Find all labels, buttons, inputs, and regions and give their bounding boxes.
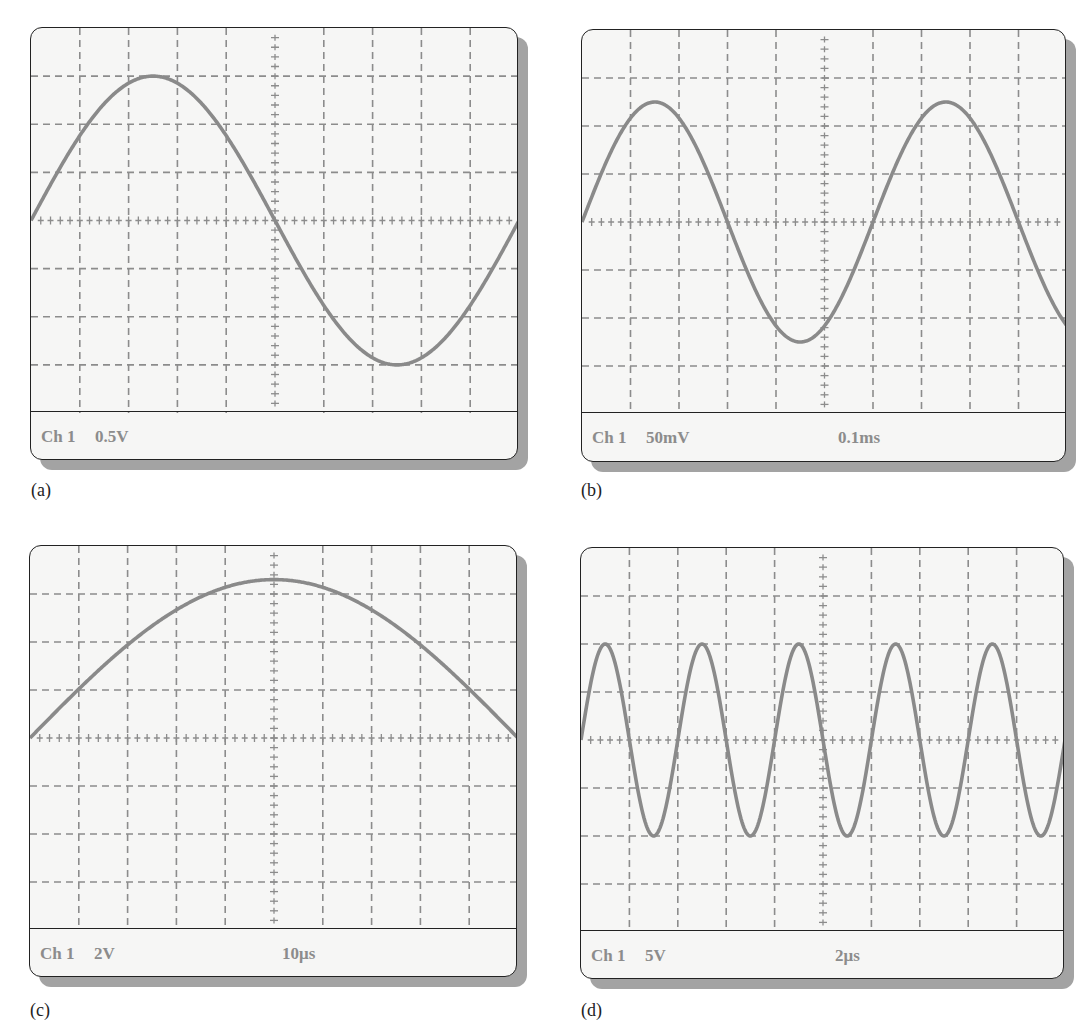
scope-panel-a: Ch 1 0.5V [30,27,518,460]
scope-screen-frame: Ch 1 0.5V [30,27,518,460]
scope-panel-d: Ch 1 5V 2μs [580,547,1064,979]
scope-graticule-b [582,30,1066,414]
scope-screen-frame: Ch 1 2V 10μs [29,545,517,977]
channel-label: Ch 1 [591,946,625,966]
panel-caption-a: (a) [31,480,51,501]
readout-bar: Ch 1 2V 10μs [30,928,516,976]
time-per-div: 10μs [282,944,315,964]
panel-caption-b: (b) [581,480,602,501]
channel-label: Ch 1 [41,427,75,447]
readout-bar: Ch 1 0.5V [31,411,517,459]
scope-screen-frame: Ch 1 5V 2μs [580,547,1064,979]
channel-label: Ch 1 [592,428,626,448]
scope-graticule-a [31,28,518,413]
scope-panel-b: Ch 1 50mV 0.1ms [581,29,1066,462]
scope-graticule-d [581,548,1064,932]
waveform-trace [31,76,518,365]
volts-per-div: 50mV [646,428,689,448]
scope-graticule-c [30,546,517,930]
volts-per-div: 5V [645,946,666,966]
time-per-div: 2μs [835,946,860,966]
channel-label: Ch 1 [40,944,74,964]
panel-caption-c: (c) [30,1000,50,1021]
volts-per-div: 0.5V [95,427,129,447]
readout-bar: Ch 1 5V 2μs [581,930,1063,978]
time-per-div: 0.1ms [838,428,880,448]
panel-caption-d: (d) [581,1000,602,1021]
volts-per-div: 2V [94,944,115,964]
scope-screen-frame: Ch 1 50mV 0.1ms [581,29,1066,462]
scope-panel-c: Ch 1 2V 10μs [29,545,517,977]
readout-bar: Ch 1 50mV 0.1ms [582,412,1065,461]
